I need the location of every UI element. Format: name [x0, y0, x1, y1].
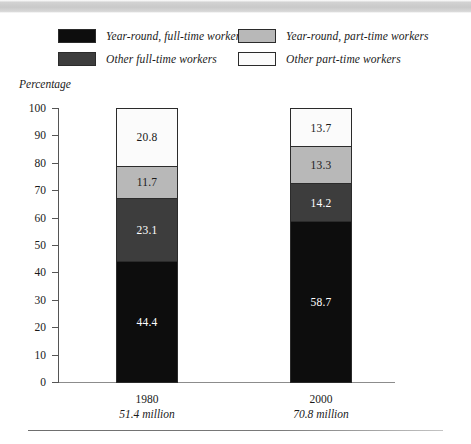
bottom-horizontal-rule	[28, 430, 443, 431]
x-axis-category-2000: 2000 70.8 million	[251, 392, 391, 422]
y-tick-100	[52, 108, 59, 109]
category-name-1980: 1980	[77, 392, 217, 407]
bar-segment-value: 20.8	[137, 131, 158, 143]
y-tick-label-30: 30	[12, 295, 46, 306]
y-tick-60	[52, 218, 59, 219]
bar-segment-value: 14.2	[311, 197, 332, 209]
y-tick-20	[52, 327, 59, 328]
chart-plot-area: 100 90 80 70 60 50 40 30 20 10 0 20.8 11…	[0, 0, 471, 444]
bar-column-1980[interactable]: 20.8 11.7 23.1 44.4	[116, 108, 178, 383]
category-subtitle-2000: 70.8 million	[251, 407, 391, 422]
bar-segment-year-round-full-time-2000[interactable]: 58.7	[291, 221, 351, 381]
y-tick-label-70: 70	[12, 185, 46, 196]
bar-column-2000[interactable]: 13.7 13.3 14.2 58.7	[290, 108, 352, 383]
bar-segment-value: 23.1	[137, 224, 158, 236]
bar-segment-value: 13.7	[311, 122, 332, 134]
y-tick-40	[52, 272, 59, 273]
y-tick-label-50: 50	[12, 240, 46, 251]
y-tick-label-40: 40	[12, 267, 46, 278]
bar-segment-value: 11.7	[137, 176, 158, 188]
bar-segment-other-part-time-1980[interactable]: 20.8	[117, 109, 177, 166]
y-tick-90	[52, 135, 59, 136]
y-tick-label-60: 60	[12, 213, 46, 224]
bar-segment-other-full-time-1980[interactable]: 23.1	[117, 198, 177, 261]
bar-segment-year-round-part-time-2000[interactable]: 13.3	[291, 146, 351, 182]
y-tick-10	[52, 355, 59, 356]
bar-segment-value: 58.7	[311, 296, 332, 308]
y-tick-label-10: 10	[12, 350, 46, 361]
y-tick-label-0: 0	[12, 377, 46, 388]
bar-segment-year-round-full-time-1980[interactable]: 44.4	[117, 261, 177, 382]
y-tick-label-90: 90	[12, 130, 46, 141]
bar-segment-value: 13.3	[311, 159, 332, 171]
y-tick-70	[52, 190, 59, 191]
category-subtitle-1980: 51.4 million	[77, 407, 217, 422]
bar-segment-other-full-time-2000[interactable]: 14.2	[291, 183, 351, 222]
y-tick-0	[52, 382, 59, 383]
category-name-2000: 2000	[251, 392, 391, 407]
bar-segment-other-part-time-2000[interactable]: 13.7	[291, 109, 351, 146]
y-tick-label-100: 100	[12, 103, 46, 114]
x-axis-category-1980: 1980 51.4 million	[77, 392, 217, 422]
y-tick-50	[52, 245, 59, 246]
y-tick-30	[52, 300, 59, 301]
y-tick-label-80: 80	[12, 158, 46, 169]
y-tick-label-20: 20	[12, 322, 46, 333]
bar-segment-year-round-part-time-1980[interactable]: 11.7	[117, 166, 177, 198]
y-tick-80	[52, 163, 59, 164]
bar-segment-value: 44.4	[137, 316, 158, 328]
